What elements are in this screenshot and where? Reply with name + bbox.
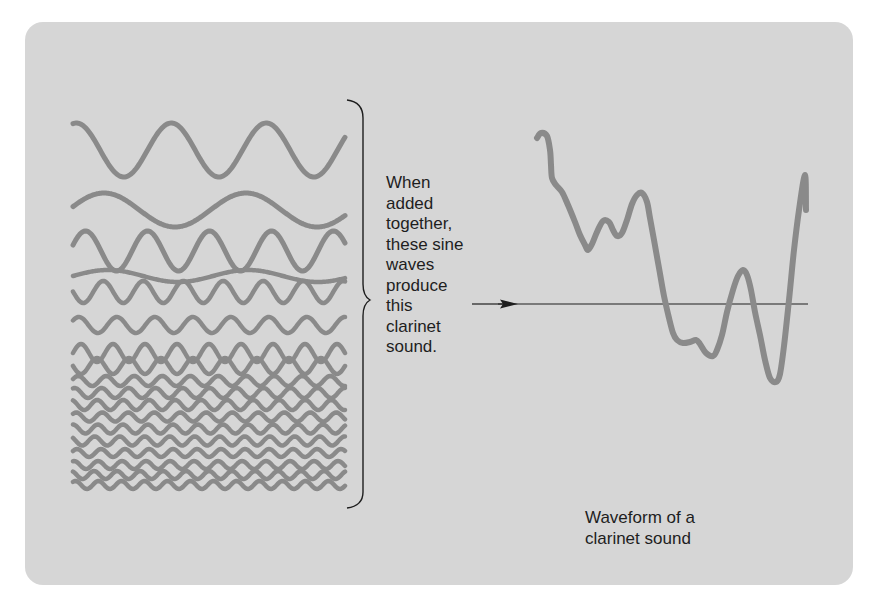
sine-wave: [73, 413, 345, 422]
brace-text-line: clarinet: [386, 317, 496, 338]
sine-wave: [73, 471, 345, 479]
curly-brace: [347, 100, 370, 508]
brace-text-line: sound.: [386, 337, 496, 358]
sine-wave: [73, 358, 345, 374]
sine-wave: [73, 376, 345, 386]
caption-line: clarinet sound: [585, 529, 765, 550]
clarinet-waveform: [537, 133, 806, 382]
brace-text-line: together,: [386, 214, 496, 235]
sine-wave: [73, 344, 345, 362]
brace-text-line: this: [386, 296, 496, 317]
sine-wave: [73, 449, 345, 457]
waveform-caption: Waveform of a clarinet sound: [585, 508, 765, 549]
sine-wave: [73, 193, 345, 227]
sine-wave: [73, 317, 345, 333]
sine-wave: [73, 388, 345, 398]
sine-wave: [73, 425, 345, 434]
brace-explanation-text: When added together, these sine waves pr…: [386, 173, 496, 358]
sine-wave: [73, 231, 345, 271]
caption-line: Waveform of a: [585, 508, 765, 529]
sine-wave: [73, 461, 345, 469]
sine-wave: [73, 123, 345, 177]
sine-wave: [73, 481, 345, 489]
sine-wave: [73, 400, 345, 410]
brace-text-line: When: [386, 173, 496, 194]
sine-wave: [73, 437, 345, 446]
sine-wave-components: [73, 123, 345, 489]
brace-text-line: these sine: [386, 235, 496, 256]
brace-text-line: produce: [386, 276, 496, 297]
brace-text-line: added: [386, 194, 496, 215]
brace-text-line: waves: [386, 255, 496, 276]
sine-wave: [73, 281, 345, 303]
